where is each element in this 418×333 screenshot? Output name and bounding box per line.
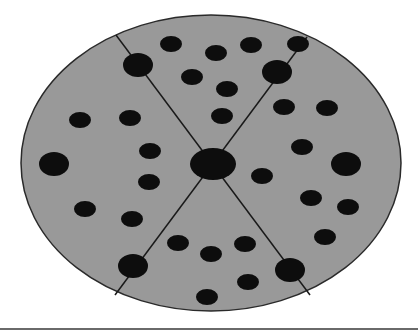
- small-dot: [139, 143, 161, 159]
- small-dot: [211, 108, 233, 124]
- small-dot: [121, 211, 143, 227]
- small-dot: [69, 112, 91, 128]
- small-dot: [196, 289, 218, 305]
- small-dot: [205, 45, 227, 61]
- small-dot: [234, 236, 256, 252]
- large-dot: [331, 152, 361, 176]
- small-dot: [74, 201, 96, 217]
- small-dot: [240, 37, 262, 53]
- center-dot: [190, 148, 236, 180]
- small-dot: [138, 174, 160, 190]
- small-dot: [287, 36, 309, 52]
- small-dot: [300, 190, 322, 206]
- large-dot: [275, 258, 305, 282]
- small-dot: [216, 81, 238, 97]
- small-dot: [160, 36, 182, 52]
- large-dot: [39, 152, 69, 176]
- small-dot: [167, 235, 189, 251]
- large-dot: [118, 254, 148, 278]
- small-dot: [273, 99, 295, 115]
- large-dot: [123, 53, 153, 77]
- sectored-disc-diagram: [0, 0, 418, 333]
- small-dot: [237, 274, 259, 290]
- small-dot: [337, 199, 359, 215]
- small-dot: [251, 168, 273, 184]
- small-dot: [291, 139, 313, 155]
- small-dot: [316, 100, 338, 116]
- large-dot: [262, 60, 292, 84]
- bottom-rule: [0, 328, 418, 330]
- small-dot: [200, 246, 222, 262]
- small-dot: [181, 69, 203, 85]
- small-dot: [314, 229, 336, 245]
- small-dot: [119, 110, 141, 126]
